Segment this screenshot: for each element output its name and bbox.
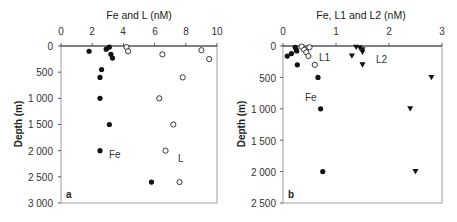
data-point-l xyxy=(207,56,212,61)
data-point-l xyxy=(180,75,185,80)
panel-a-tick-marks xyxy=(58,43,217,203)
data-point-fe xyxy=(86,49,91,54)
data-point-l1 xyxy=(312,62,317,67)
data-point-fe xyxy=(99,67,104,72)
panel-b-data-points xyxy=(285,44,435,174)
y-tick: 0 xyxy=(47,41,53,52)
x-tick: 0 xyxy=(58,26,64,37)
data-point-l xyxy=(171,122,176,127)
panel-b-tick-marks xyxy=(280,43,442,203)
x-tick: 2 xyxy=(89,26,95,37)
data-point-l1 xyxy=(306,53,311,58)
x-tick: 2 xyxy=(386,26,392,37)
panel-a-y-ticks: 0 500 1 000 1 500 2 000 2 500 3 000 xyxy=(28,41,53,209)
data-point-l xyxy=(199,48,204,53)
panel-a-frame xyxy=(61,46,217,203)
panel-a-data-points xyxy=(86,44,211,184)
panel-b-label: b xyxy=(288,189,294,200)
y-tick: 1 000 xyxy=(28,93,53,104)
x-tick: 3 xyxy=(439,26,445,37)
y-tick: 1 500 xyxy=(251,136,276,147)
y-tick: 2 500 xyxy=(251,198,276,209)
data-point-fe xyxy=(97,148,102,153)
panel-b-y-label: Depth (m) xyxy=(236,101,247,148)
panel-a-x-ticks: 0 2 4 6 8 10 xyxy=(58,26,223,37)
panel-a: Fe and L (nM) 0 2 4 6 8 10 0 500 1 000 1… xyxy=(13,9,223,209)
data-point-l xyxy=(157,96,162,101)
y-tick: 0 xyxy=(270,41,276,52)
panel-b-x-ticks: 0 1 2 3 xyxy=(280,26,445,37)
data-point-l2 xyxy=(360,50,366,55)
x-tick: 10 xyxy=(211,26,223,37)
data-point-fe xyxy=(97,96,102,101)
panel-a-label: a xyxy=(66,189,72,200)
annotation-fe: Fe xyxy=(109,149,121,160)
panel-b-y-ticks: 0 500 1 000 1 500 2 000 2 500 xyxy=(251,41,276,209)
data-point-fe xyxy=(149,179,154,184)
panel-a-title: Fe and L (nM) xyxy=(106,9,172,21)
data-point-fe xyxy=(285,53,290,58)
y-tick: 2 000 xyxy=(28,146,53,157)
annotation-l: L xyxy=(178,153,184,164)
annotation-l2: L2 xyxy=(376,54,388,65)
annotation-fe: Fe xyxy=(305,92,317,103)
data-point-l xyxy=(125,49,130,54)
x-tick: 1 xyxy=(333,26,339,37)
data-point-l2 xyxy=(360,62,366,67)
data-point-l2 xyxy=(428,75,434,80)
y-tick: 1 500 xyxy=(28,119,53,130)
x-tick: 0 xyxy=(280,26,286,37)
y-tick: 3 000 xyxy=(28,198,53,209)
data-point-fe xyxy=(315,75,320,80)
data-point-fe xyxy=(320,169,325,174)
data-point-fe xyxy=(294,48,299,53)
data-point-fe xyxy=(318,106,323,111)
y-tick: 500 xyxy=(36,67,53,78)
data-point-l1 xyxy=(307,45,312,50)
panel-a-y-label: Depth (m) xyxy=(13,101,24,148)
x-tick: 8 xyxy=(183,26,189,37)
data-point-fe xyxy=(110,55,115,60)
data-point-fe xyxy=(104,47,109,52)
annotation-l1: L1 xyxy=(319,52,331,63)
data-point-l xyxy=(163,148,168,153)
x-tick: 4 xyxy=(120,26,126,37)
data-point-fe xyxy=(295,62,300,67)
y-tick: 500 xyxy=(259,73,276,84)
panel-b-title: Fe, L1 and L2 (nM) xyxy=(316,9,405,21)
panel-b: Fe, L1 and L2 (nM) 0 1 2 3 0 500 1 000 1… xyxy=(236,9,445,209)
panel-b-frame xyxy=(283,46,442,203)
data-point-l2 xyxy=(349,54,355,59)
data-point-l2 xyxy=(413,169,419,174)
depth-profile-figure: Fe and L (nM) 0 2 4 6 8 10 0 500 1 000 1… xyxy=(0,0,457,222)
data-point-l2 xyxy=(407,106,413,111)
data-point-l xyxy=(160,52,165,57)
y-tick: 2 000 xyxy=(251,167,276,178)
data-point-fe xyxy=(107,122,112,127)
y-tick: 1 000 xyxy=(251,104,276,115)
y-tick: 2 500 xyxy=(28,172,53,183)
data-point-l xyxy=(177,179,182,184)
data-point-fe xyxy=(97,75,102,80)
x-tick: 6 xyxy=(152,26,158,37)
